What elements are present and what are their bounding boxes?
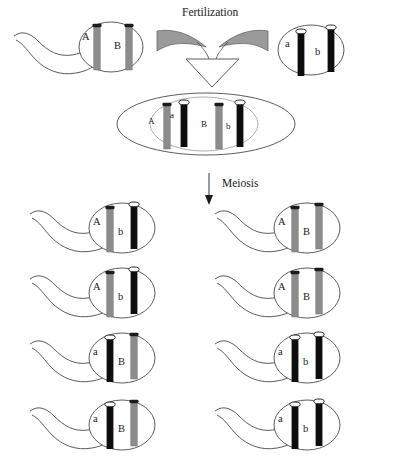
fertilization-label: Fertilization <box>182 6 238 18</box>
chromosome-gamete-1-left-A <box>105 206 114 252</box>
gamete-rows: AbABAbABaBabaBab <box>30 202 340 450</box>
allele-label-sperm-B: B <box>114 40 121 51</box>
zygote-cell: A a B b <box>117 93 295 155</box>
chromosome-gamete-2-right-B <box>314 268 323 314</box>
allele-label-gamete-3-right-b: b <box>303 356 308 367</box>
sperm-cell: A B <box>14 22 143 74</box>
chromosome-gamete-1-right-B <box>314 203 323 249</box>
allele-label-gamete-4-left-a: a <box>93 413 98 424</box>
allele-label-gamete-1-right-B: B <box>303 226 310 237</box>
allele-label-gamete-2-right-B: B <box>303 291 310 302</box>
allele-label-gamete-4-left-B: B <box>118 423 125 434</box>
gamete-4-left: aB <box>30 400 155 450</box>
gamete-1-left: Ab <box>30 202 155 253</box>
chromosome-gamete-2-right-A <box>290 271 299 317</box>
chromosome-gamete-3-left-B <box>129 333 138 379</box>
gamete-4-right: ab <box>215 399 340 450</box>
allele-label-zygote-A: A <box>148 116 155 126</box>
allele-label-zygote-a: a <box>170 110 174 120</box>
genetics-diagram: A B a b Fertilization <box>0 0 398 471</box>
gamete-1-right: AB <box>215 203 340 253</box>
allele-label-gamete-1-left-A: A <box>93 216 101 227</box>
gamete-3-right: ab <box>215 332 340 383</box>
fertilization-arrow-head <box>186 59 239 87</box>
gamete-2-right: AB <box>215 268 340 318</box>
chromosome-zygote-B <box>214 103 223 149</box>
allele-label-gamete-1-left-b: b <box>118 226 123 237</box>
allele-label-gamete-2-right-A: A <box>278 281 286 292</box>
gamete-3-left: aB <box>30 333 155 383</box>
allele-label-gamete-3-right-a: a <box>278 346 283 357</box>
chromosome-gamete-4-left-B <box>129 400 138 446</box>
meiosis-label: Meiosis <box>222 177 259 189</box>
allele-label-sperm-A: A <box>82 31 90 42</box>
gamete-2-left: Ab <box>30 267 155 318</box>
chromosome-gamete-2-left-A <box>105 271 114 317</box>
allele-label-zygote-B: B <box>201 119 207 129</box>
fertilization-arrow: Fertilization <box>157 6 268 87</box>
allele-label-zygote-b: b <box>226 121 231 131</box>
allele-label-gamete-4-right-b: b <box>303 423 308 434</box>
allele-label-gamete-1-right-A: A <box>278 216 286 227</box>
chromosome-sperm-B <box>124 24 133 70</box>
chromosome-gamete-1-right-A <box>290 206 299 252</box>
allele-label-gamete-3-left-a: a <box>93 346 98 357</box>
meiosis-arrow: Meiosis <box>205 173 259 205</box>
allele-label-gamete-3-left-B: B <box>118 356 125 367</box>
allele-label-gamete-2-left-b: b <box>118 291 123 302</box>
egg-cell: a b <box>278 25 344 76</box>
chromosome-sperm-A <box>92 24 101 70</box>
allele-label-gamete-4-right-a: a <box>278 413 283 424</box>
sperm-head <box>79 22 143 72</box>
allele-label-egg-a: a <box>285 38 290 49</box>
allele-label-gamete-2-left-A: A <box>93 281 101 292</box>
allele-label-egg-b: b <box>315 46 320 57</box>
